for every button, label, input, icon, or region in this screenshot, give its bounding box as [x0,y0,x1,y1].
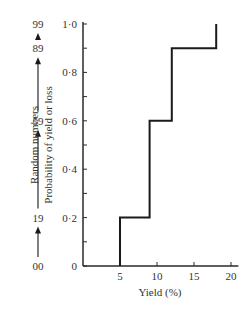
random-number-label: 89 [33,42,45,54]
random-number-label: 99 [33,18,45,30]
arrow-head-icon [35,33,41,40]
x-tick-label: 10 [152,270,164,282]
arrow-head-icon [35,227,41,234]
random-number-label: 19 [33,212,45,224]
chart: 00·20·40·60·81·05101520 0019598999 Yield… [0,0,252,309]
arrow-head-icon [35,57,41,64]
y-tick-label: 0·6 [62,115,77,127]
x-tick-label: 15 [189,270,201,282]
y-tick-label: 1·0 [62,18,77,30]
y-tick-label: 0·2 [62,212,77,224]
x-tick-label: 20 [226,270,238,282]
step-series [120,24,216,266]
random-numbers-label: Random numbers [28,106,40,184]
y-tick-label: 0 [72,260,78,272]
y-axis-label: Probability of yield or loss [42,86,54,203]
random-number-label: 00 [33,260,45,272]
x-tick-label: 5 [117,270,123,282]
y-tick-label: 0·8 [62,66,77,78]
x-axis-label: Yield (%) [138,286,181,299]
y-tick-label: 0·4 [62,163,77,175]
step-line [120,24,216,266]
